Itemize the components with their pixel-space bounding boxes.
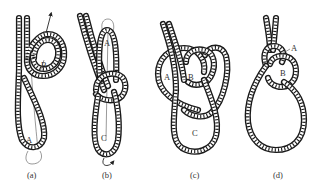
label-a: A [291,43,298,53]
caption-c: (c) [190,170,200,180]
label-c: C [101,133,107,143]
rope [18,18,64,147]
label-b: B [188,72,194,82]
caption-b: (b) [102,170,112,180]
knot-diagram: B A (a) A C (b) [0,0,316,191]
label-b: B [280,68,286,78]
panel-b: A C (b) [80,16,125,180]
loop-end [26,151,42,164]
rope [248,18,304,150]
label-c: C [192,128,198,138]
direction-arrow [103,158,113,165]
caption-a: (a) [27,170,37,180]
label-a: A [26,135,33,145]
panel-c: A B C (c) [158,24,227,180]
caption-d: (d) [273,170,283,180]
direction-arrow [46,14,51,33]
label-a: A [164,72,171,82]
panel-d: A B (d) [248,18,304,180]
label-b: B [41,60,47,70]
panel-a: B A (a) [18,14,64,180]
label-a: A [104,38,111,48]
